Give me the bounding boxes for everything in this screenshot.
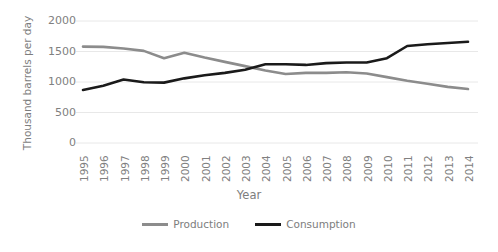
x-axis-tick-label: 2000: [180, 142, 191, 182]
chart-legend: ProductionConsumption: [0, 218, 498, 230]
x-axis-tick-label: 2007: [322, 142, 333, 182]
x-axis-tick-label: 1996: [99, 142, 110, 182]
legend-item-production[interactable]: Production: [142, 218, 229, 230]
legend-swatch-icon: [142, 223, 168, 226]
x-axis-tick-label: 2001: [201, 142, 212, 182]
legend-item-consumption[interactable]: Consumption: [255, 218, 356, 230]
line-chart: Thousand barrels per day 050010001500200…: [0, 0, 498, 252]
x-axis-tick-label: 2011: [403, 142, 414, 182]
x-axis-tick-label: 1999: [160, 142, 171, 182]
x-axis-tick-label: 1995: [79, 142, 90, 182]
x-axis-tick-label: 2014: [464, 142, 475, 182]
x-axis-tick-label: 2004: [261, 142, 272, 182]
x-axis-tick-label: 2005: [282, 142, 293, 182]
x-axis-title: Year: [0, 188, 498, 202]
x-axis-tick-labels: 1995199619971998199920002001200220032004…: [0, 0, 498, 252]
legend-swatch-icon: [255, 223, 281, 226]
x-axis-tick-label: 2003: [241, 142, 252, 182]
x-axis-tick-label: 1998: [140, 142, 151, 182]
x-axis-tick-label: 2006: [302, 142, 313, 182]
x-axis-tick-label: 1997: [120, 142, 131, 182]
x-axis-tick-label: 2012: [423, 142, 434, 182]
legend-label: Production: [173, 218, 229, 230]
x-axis-tick-label: 2010: [383, 142, 394, 182]
x-axis-tick-label: 2008: [342, 142, 353, 182]
x-axis-tick-label: 2013: [444, 142, 455, 182]
x-axis-tick-label: 2009: [363, 142, 374, 182]
legend-label: Consumption: [286, 218, 356, 230]
x-axis-tick-label: 2002: [221, 142, 232, 182]
